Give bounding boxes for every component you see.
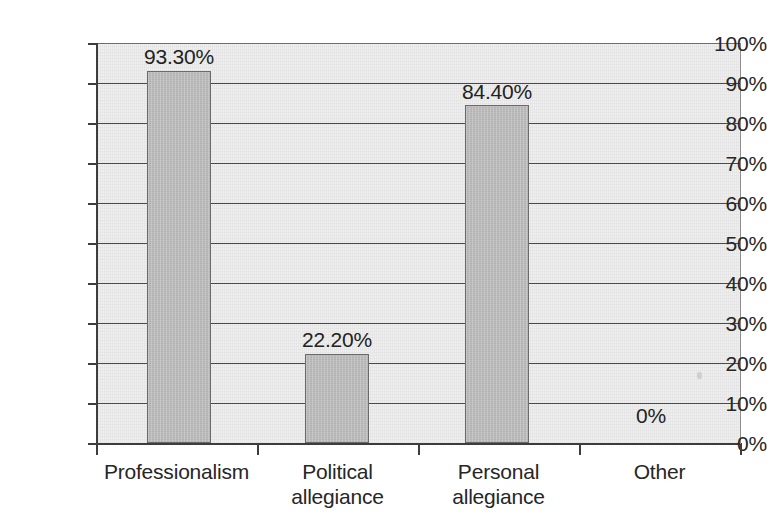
y-tick-label-90: 90% (683, 73, 767, 94)
category-label-line1: Personal (418, 459, 579, 484)
y-tick-mark-50 (88, 243, 97, 245)
category-label-personal-allegiance: Personal allegiance (418, 459, 579, 509)
x-tick-mark-0 (96, 444, 98, 455)
y-tick-label-40: 40% (683, 273, 767, 294)
x-tick-mark-1 (257, 444, 259, 455)
y-tick-mark-10 (88, 403, 97, 405)
y-tick-label-60: 60% (683, 193, 767, 214)
category-label-line1: Political (257, 459, 418, 484)
y-tick-mark-30 (88, 323, 97, 325)
y-tick-label-80: 80% (683, 113, 767, 134)
y-tick-label-50: 50% (683, 233, 767, 254)
y-tick-label-100: 100% (683, 33, 767, 54)
y-tick-label-10: 10% (683, 393, 767, 414)
bar-professionalism (147, 71, 211, 443)
bar-personal-allegiance (465, 105, 529, 443)
y-tick-label-0: 0% (683, 433, 767, 454)
bar-chart-figure: 93.30% 22.20% 84.40% 0% 100% 90% 80% 70%… (0, 0, 767, 521)
gridline-100 (96, 43, 741, 44)
y-tick-mark-60 (88, 203, 97, 205)
y-tick-mark-100 (88, 43, 97, 45)
category-label-line1: Other (579, 459, 740, 484)
category-label-line2: allegiance (418, 484, 579, 509)
y-tick-mark-40 (88, 283, 97, 285)
category-label-other: Other (579, 459, 740, 484)
bar-value-label-political-allegiance: 22.20% (267, 329, 407, 350)
y-tick-mark-20 (88, 363, 97, 365)
x-tick-mark-2 (418, 444, 420, 455)
y-tick-label-20: 20% (683, 353, 767, 374)
category-label-line1: Professionalism (96, 459, 257, 484)
y-tick-label-70: 70% (683, 153, 767, 174)
bar-value-label-personal-allegiance: 84.40% (427, 81, 567, 102)
y-tick-mark-70 (88, 163, 97, 165)
bar-political-allegiance (305, 354, 369, 443)
category-label-professionalism: Professionalism (96, 459, 257, 484)
category-label-political-allegiance: Political allegiance (257, 459, 418, 509)
y-tick-mark-80 (88, 123, 97, 125)
category-label-line2: allegiance (257, 484, 418, 509)
x-tick-mark-4 (740, 444, 742, 455)
y-tick-label-30: 30% (683, 313, 767, 334)
x-tick-mark-3 (579, 444, 581, 455)
y-tick-mark-90 (88, 83, 97, 85)
bar-value-label-professionalism: 93.30% (109, 46, 249, 67)
